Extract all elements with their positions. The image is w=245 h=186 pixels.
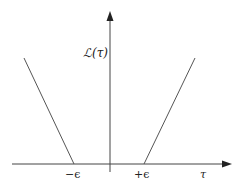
tick-pos-epsilon: +ϵ [134, 169, 149, 180]
tick-neg-epsilon: −ϵ [65, 169, 80, 180]
y-axis-arrow-icon [107, 11, 114, 21]
left-branch-line [24, 58, 74, 164]
right-branch-line [144, 58, 195, 164]
diagram-graphic [0, 0, 245, 186]
x-axis-arrow-icon [222, 161, 232, 168]
x-axis-label: τ [200, 169, 206, 180]
y-axis-label: ℒ(τ) [83, 47, 108, 59]
loss-diagram: ℒ(τ) −ϵ +ϵ τ [0, 0, 245, 186]
